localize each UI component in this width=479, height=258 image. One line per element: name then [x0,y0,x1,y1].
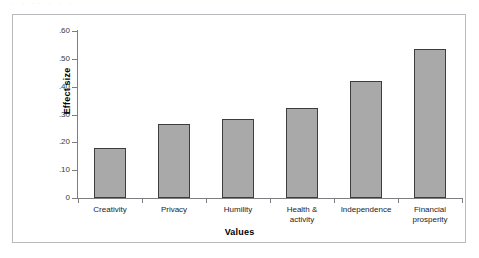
bar [286,108,318,198]
y-tick-mark [72,31,77,32]
x-tick-mark [142,199,143,203]
y-tick-mark [72,87,77,88]
y-axis-title: Effect size [62,46,72,136]
y-tick-label: .20 [40,138,70,146]
x-category-label: Privacy [142,205,206,215]
x-tick-mark [398,199,399,203]
bar [94,148,126,198]
y-tick-mark [72,198,77,199]
y-axis-line [77,30,78,199]
x-tick-mark [206,199,207,203]
y-tick-mark [72,59,77,60]
x-category-label: Independence [334,205,398,215]
y-tick-label: 0 [40,194,70,202]
x-tick-mark [270,199,271,203]
x-category-label: Creativity [78,205,142,215]
bar [158,124,190,198]
y-tick-mark [72,115,77,116]
x-tick-mark [462,199,463,203]
x-tick-mark [334,199,335,203]
y-tick-label: .10 [40,166,70,174]
x-category-label: Financial prosperity [398,205,462,224]
x-category-label: Health & activity [270,205,334,224]
x-axis-title: Values [0,227,479,237]
y-tick-mark [72,170,77,171]
y-tick-label: .60 [40,27,70,35]
figure-container: · · ·· · · · 0.10.20.30.40.50.60 Creativ… [0,0,479,258]
x-tick-mark [78,199,79,203]
bar [414,49,446,198]
y-tick-mark [72,142,77,143]
bar [222,119,254,198]
bar [350,81,382,198]
x-category-label: Humility [206,205,270,215]
plot-wrapper: 0.10.20.30.40.50.60 CreativityPrivacyHum… [0,0,479,258]
